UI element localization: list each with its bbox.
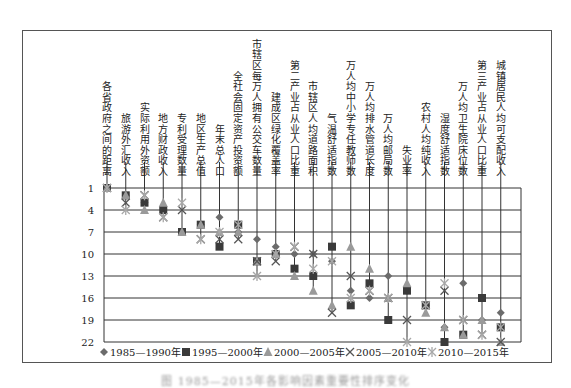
diamond-marker-icon [216, 213, 224, 221]
category-label: 重 [477, 165, 487, 177]
square-marker-icon [403, 287, 411, 295]
category-label: 辖 [308, 91, 318, 103]
category-label: 度 [440, 123, 450, 135]
category-label: 人 [346, 71, 356, 82]
category-label: 省 [102, 91, 112, 103]
category-label: 末 [215, 133, 225, 145]
square-marker-icon [328, 243, 336, 251]
category-label: 收 [421, 154, 431, 166]
category-label: 人 [421, 124, 431, 135]
category-label: 均 [308, 124, 318, 135]
category-label: 产 [233, 133, 243, 145]
category-label: 人 [308, 113, 318, 124]
category-label: 政 [102, 101, 112, 113]
category-label: 会 [233, 91, 243, 103]
category-label: 入 [158, 166, 168, 177]
category-label: 汇 [121, 144, 131, 156]
category-label: 任 [346, 133, 356, 145]
category-label: 重 [290, 165, 300, 177]
category-label: 均 [383, 134, 393, 145]
category-label: 比 [290, 155, 300, 166]
category-label: 舒 [327, 133, 337, 145]
category-label: 实 [140, 101, 150, 113]
legend-label: 2010—2015年 [438, 346, 509, 358]
category-label: 各 [102, 80, 112, 92]
category-label: 业 [290, 92, 300, 103]
category-label: 业 [477, 124, 487, 135]
y-tick-label: 16 [81, 293, 94, 304]
category-label: 度 [365, 165, 375, 177]
category-label: 第 [290, 59, 300, 71]
asterisk-marker-icon [291, 242, 299, 252]
category-label: 配 [496, 145, 506, 156]
category-label: 适 [440, 145, 450, 156]
y-tick-label: 1 [88, 183, 94, 194]
category-label: 万 [365, 81, 375, 92]
diamond-marker-icon [497, 309, 505, 317]
category-label: 指 [327, 154, 337, 166]
category-label: 资 [233, 155, 243, 166]
category-label: 指 [440, 154, 450, 166]
category-label: 路 [308, 144, 318, 156]
legend-label: 1995—2000年 [192, 346, 263, 358]
category-label: 万 [252, 81, 262, 92]
asterisk-marker-icon [478, 330, 486, 340]
category-label: 长 [365, 155, 375, 166]
category-label: 拥 [252, 101, 262, 113]
category-label: 收 [158, 154, 168, 166]
square-marker-icon [182, 348, 190, 356]
category-label: 区 [271, 113, 281, 124]
category-label: 中 [346, 91, 356, 103]
category-label: 理 [177, 145, 187, 156]
square-marker-icon [478, 294, 486, 302]
asterisk-marker-icon [366, 286, 374, 296]
category-label: 数 [327, 165, 337, 177]
category-label: 量 [252, 166, 262, 177]
category-label: 师 [346, 154, 356, 166]
category-label: 第 [477, 59, 487, 71]
category-label: 区 [196, 124, 206, 135]
category-label: 人 [477, 134, 487, 145]
diamond-marker-icon [253, 235, 261, 243]
category-label: 数 [458, 165, 468, 177]
category-label: 业 [402, 155, 412, 166]
category-label: 间 [102, 133, 112, 145]
category-label: 万 [383, 113, 393, 124]
category-label: 人 [252, 92, 262, 103]
category-label: 有 [252, 112, 262, 124]
category-label: 生 [196, 133, 206, 145]
y-tick-label: 19 [81, 315, 94, 326]
category-label: 旅 [121, 112, 131, 124]
category-label: 总 [215, 144, 225, 156]
category-label: 量 [177, 166, 187, 177]
category-label: 气 [327, 112, 337, 124]
category-label: 投 [233, 144, 243, 156]
category-label: 收 [121, 154, 131, 166]
category-label: 村 [421, 112, 431, 124]
category-label: 游 [121, 123, 131, 135]
triangle-marker-icon [346, 242, 355, 251]
category-label: 年 [215, 123, 225, 135]
category-label: 值 [196, 165, 206, 177]
category-label: 资 [233, 124, 243, 135]
category-label: 比 [477, 155, 487, 166]
category-label: 湿 [440, 113, 450, 124]
category-label: 口 [215, 166, 225, 177]
category-label: 可 [496, 124, 506, 135]
x-marker-icon [346, 348, 354, 356]
category-label: 绿 [271, 123, 281, 135]
category-label: 局 [383, 155, 393, 166]
category-label: 之 [102, 123, 112, 135]
category-label: 业 [477, 92, 487, 103]
category-label: 人 [365, 92, 375, 103]
category-label: 外 [140, 145, 150, 156]
category-label: 道 [308, 133, 318, 145]
category-label: 数 [252, 154, 262, 166]
category-label: 全 [233, 70, 243, 82]
diamond-marker-icon [100, 348, 108, 356]
category-label: 区 [252, 60, 262, 71]
category-label: 入 [496, 166, 506, 177]
category-label: 均 [346, 81, 356, 92]
category-label: 建 [271, 91, 281, 103]
category-label: 用 [140, 134, 150, 145]
